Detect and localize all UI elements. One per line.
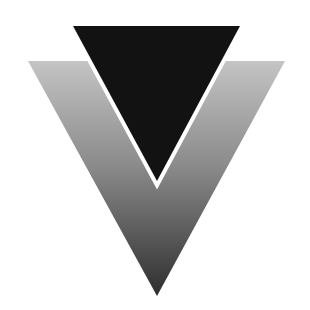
triangles-logo-icon	[0, 0, 310, 310]
logo-canvas	[0, 0, 310, 310]
